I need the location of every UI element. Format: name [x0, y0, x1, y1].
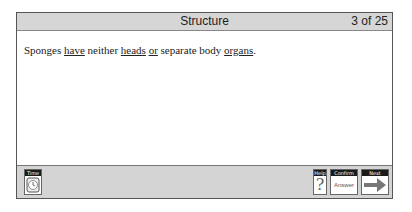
answer-choice-heads[interactable]: heads [121, 44, 146, 56]
sentence-text: Sponges [24, 44, 64, 56]
next-button[interactable]: Next [361, 169, 389, 195]
answer-choice-have[interactable]: have [64, 44, 85, 56]
sentence-text: neither [85, 44, 121, 56]
test-panel: Structure 3 of 25 Sponges have neither h… [16, 12, 393, 199]
arrow-right-icon [363, 177, 387, 193]
clock-icon [26, 177, 40, 193]
confirm-answer-button[interactable]: Confirm Answer [330, 169, 358, 195]
header-bar: Structure 3 of 25 [17, 13, 392, 31]
question-progress: 3 of 25 [351, 14, 388, 28]
footer-toolbar: Time Help ? Confirm Answer Ne [17, 165, 392, 198]
time-button[interactable]: Time [24, 169, 42, 195]
sentence-text: . [253, 44, 256, 56]
help-button[interactable]: Help ? [313, 169, 327, 195]
question-sentence: Sponges have neither heads or separate b… [24, 44, 386, 56]
answer-choice-or[interactable]: or [149, 44, 158, 56]
sentence-text: separate body [158, 44, 224, 56]
section-title: Structure [17, 14, 392, 28]
answer-choice-organs[interactable]: organs [224, 44, 253, 56]
question-mark-icon: ? [316, 177, 325, 193]
answer-text: Answer [334, 182, 354, 188]
